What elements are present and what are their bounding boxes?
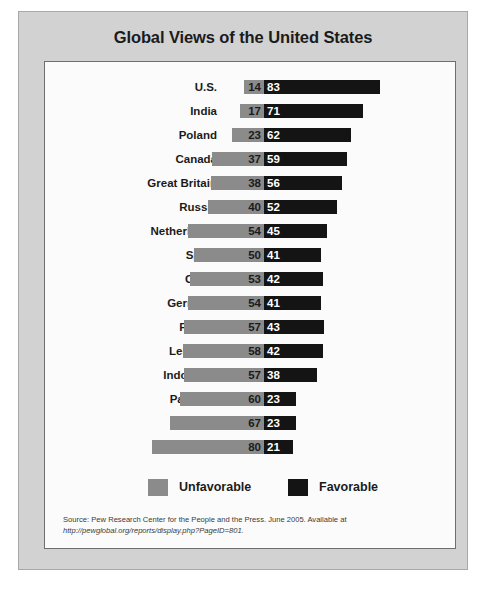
bar-row: Jordan8021: [45, 435, 455, 459]
bar-unfavorable: 57: [184, 368, 264, 382]
bar-group: 5445: [45, 224, 455, 238]
source-text: Source: Pew Research Center for the Peop…: [63, 515, 347, 524]
bar-favorable: 71: [264, 104, 363, 118]
bar-unfavorable: 40: [208, 200, 264, 214]
bar-favorable: 42: [264, 344, 323, 358]
source-url: http://pewglobal.org/reports/display.php…: [63, 526, 244, 535]
bar-group: 8021: [45, 440, 455, 454]
bar-unfavorable: 53: [190, 272, 264, 286]
bar-unfavorable: 80: [152, 440, 264, 454]
bar-row: Canada3759: [45, 147, 455, 171]
bar-unfavorable: 14: [244, 80, 264, 94]
bar-rows: U.S.1483India1771Poland2362Canada3759Gre…: [45, 75, 455, 459]
bar-row: Lebanon5842: [45, 339, 455, 363]
bar-row: Germany5441: [45, 291, 455, 315]
bar-favorable: 59: [264, 152, 347, 166]
bar-favorable: 56: [264, 176, 342, 190]
legend-item-favorable: Favorable: [288, 477, 378, 497]
bar-group: 5441: [45, 296, 455, 310]
bar-unfavorable: 60: [180, 392, 264, 406]
bar-unfavorable: 54: [188, 296, 264, 310]
legend-swatch-favorable-icon: [288, 479, 308, 496]
chart-legend: Unfavorable Favorable: [45, 477, 455, 497]
bar-row: Netherlands5445: [45, 219, 455, 243]
bar-group: 2362: [45, 128, 455, 142]
bar-favorable: 21: [264, 440, 293, 454]
bar-favorable: 43: [264, 320, 324, 334]
bar-group: 1483: [45, 80, 455, 94]
bar-unfavorable: 38: [211, 176, 264, 190]
bar-row: Turkey6723: [45, 411, 455, 435]
bar-row: India1771: [45, 99, 455, 123]
bar-unfavorable: 67: [170, 416, 264, 430]
plot-area: U.S.1483India1771Poland2362Canada3759Gre…: [44, 61, 456, 549]
bar-group: 5041: [45, 248, 455, 262]
bar-row: France5743: [45, 315, 455, 339]
source-note: Source: Pew Research Center for the Peop…: [63, 515, 443, 536]
bar-group: 3856: [45, 176, 455, 190]
bar-favorable: 62: [264, 128, 351, 142]
bar-favorable: 23: [264, 416, 296, 430]
bar-row: China5342: [45, 267, 455, 291]
bar-group: 6723: [45, 416, 455, 430]
bar-favorable: 41: [264, 296, 321, 310]
bar-row: Pakistan6023: [45, 387, 455, 411]
bar-unfavorable: 23: [232, 128, 264, 142]
chart-figure: Global Views of the United States U.S.14…: [18, 11, 468, 570]
bar-unfavorable: 58: [183, 344, 264, 358]
bar-group: 5342: [45, 272, 455, 286]
legend-label-unfavorable: Unfavorable: [179, 480, 251, 494]
bar-group: 6023: [45, 392, 455, 406]
bar-row: Poland2362: [45, 123, 455, 147]
legend-label-favorable: Favorable: [319, 480, 378, 494]
bar-favorable: 42: [264, 272, 323, 286]
bar-group: 5842: [45, 344, 455, 358]
chart-title: Global Views of the United States: [19, 28, 467, 47]
bar-favorable: 41: [264, 248, 321, 262]
bar-row: Great Britain3856: [45, 171, 455, 195]
bar-group: 3759: [45, 152, 455, 166]
bar-favorable: 23: [264, 392, 296, 406]
bar-row: Russia4052: [45, 195, 455, 219]
bar-group: 5743: [45, 320, 455, 334]
bar-favorable: 45: [264, 224, 327, 238]
bar-favorable: 83: [264, 80, 380, 94]
bar-unfavorable: 57: [184, 320, 264, 334]
bar-group: 5738: [45, 368, 455, 382]
legend-swatch-unfavorable-icon: [148, 479, 168, 496]
bar-favorable: 52: [264, 200, 337, 214]
bar-unfavorable: 54: [188, 224, 264, 238]
bar-unfavorable: 37: [212, 152, 264, 166]
bar-row: U.S.1483: [45, 75, 455, 99]
bar-row: Spain5041: [45, 243, 455, 267]
legend-item-unfavorable: Unfavorable: [148, 477, 251, 497]
bar-favorable: 38: [264, 368, 317, 382]
bar-unfavorable: 50: [194, 248, 264, 262]
bar-unfavorable: 17: [240, 104, 264, 118]
bar-group: 4052: [45, 200, 455, 214]
bar-row: Indonesia5738: [45, 363, 455, 387]
bar-group: 1771: [45, 104, 455, 118]
